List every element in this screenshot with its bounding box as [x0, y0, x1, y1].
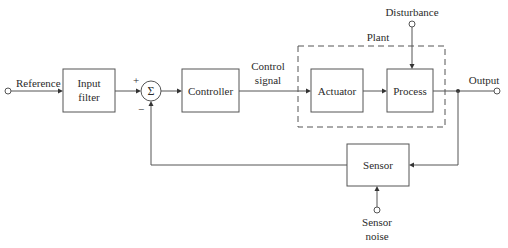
- arrowhead-icon: [149, 101, 154, 106]
- sensor-noise-label-1: Sensor: [362, 216, 392, 228]
- controller-label: Controller: [188, 85, 234, 97]
- control-signal-label-1: Control: [251, 60, 285, 72]
- arrowhead-icon: [58, 89, 63, 94]
- control-signal-label-2: signal: [255, 74, 281, 86]
- minus-sign: −: [138, 103, 144, 115]
- block-diagram: Reference Input filter Σ + − Controller …: [0, 0, 508, 248]
- disturbance-label: Disturbance: [385, 6, 438, 18]
- sensor-noise-terminal: [374, 207, 380, 213]
- reference-label: Reference: [16, 77, 61, 89]
- plus-sign: +: [133, 74, 139, 86]
- sigma-symbol: Σ: [148, 84, 155, 98]
- output-label: Output: [469, 74, 500, 86]
- arrowhead-icon: [375, 186, 380, 191]
- arrowhead-icon: [177, 89, 182, 94]
- output-terminal: [494, 88, 500, 94]
- process-label: Process: [393, 85, 427, 97]
- sensor-label: Sensor: [363, 159, 393, 171]
- arrowhead-icon: [410, 64, 415, 69]
- arrowhead-icon: [136, 89, 141, 94]
- arrowhead-icon: [306, 89, 311, 94]
- reference-terminal: [5, 88, 11, 94]
- arrowhead-icon: [409, 163, 414, 168]
- disturbance-terminal: [409, 21, 415, 27]
- input-filter-label-1: Input: [77, 77, 100, 89]
- sensor-to-sum-wire: [151, 104, 347, 165]
- plant-label: Plant: [367, 31, 390, 43]
- sensor-noise-label-2: noise: [365, 230, 388, 242]
- arrowhead-icon: [382, 89, 387, 94]
- input-filter-label-2: filter: [78, 91, 100, 103]
- actuator-label: Actuator: [318, 85, 357, 97]
